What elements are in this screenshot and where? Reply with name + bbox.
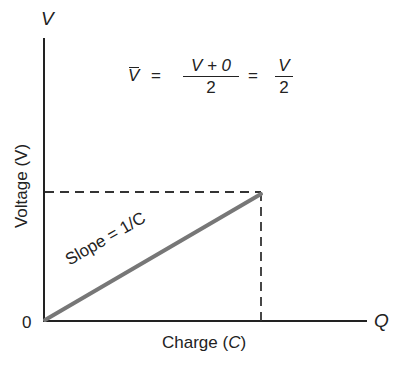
x-axis-label-prefix: Charge ( — [162, 333, 228, 352]
fraction-2-numerator: V — [275, 56, 293, 77]
x-axis-symbol: Q — [374, 310, 389, 332]
formula-eq2: = — [248, 66, 258, 86]
fraction-1-numerator: V + 0 — [183, 56, 239, 77]
y-axis-label: Voltage (V) — [12, 141, 32, 231]
y-axis-symbol: V — [41, 8, 54, 30]
origin-label: 0 — [22, 313, 31, 333]
x-axis-label-var: C — [228, 333, 240, 352]
fraction-2-denominator: 2 — [275, 77, 293, 99]
formula-fraction-1: V + 0 2 — [183, 56, 239, 99]
x-axis-label: Charge (C) — [162, 333, 246, 353]
x-axis-label-suffix: ) — [240, 333, 246, 352]
fraction-1-denominator: 2 — [183, 77, 239, 99]
formula-lhs: V — [128, 66, 139, 86]
formula-fraction-2: V 2 — [275, 56, 293, 99]
formula-eq1: = — [151, 66, 161, 86]
